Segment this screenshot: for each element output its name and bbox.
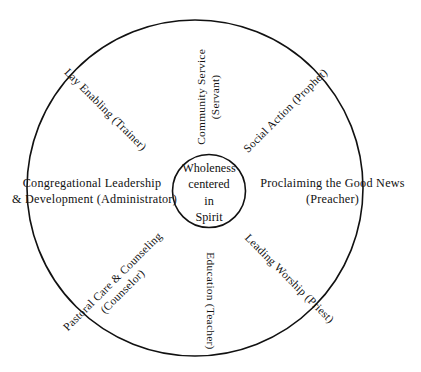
- spoke-proclaiming-line1: Proclaiming the Good News: [260, 176, 405, 190]
- spoke-lay-enabling: Lay Enabling (Trainer): [44, 48, 167, 171]
- spoke-community-service-line1: Community Service: [195, 49, 207, 145]
- wheel-diagram: Wholeness centered in Spirit Community S…: [0, 0, 421, 372]
- spoke-pastoral-care-line1: Pastoral Care & Counseling: [61, 230, 164, 333]
- spoke-community-service: Community Service (Servant): [195, 17, 223, 177]
- spoke-proclaiming-good-news: Proclaiming the Good News (Preacher): [250, 176, 415, 207]
- spoke-pastoral-care-line2: (Counselor): [54, 223, 191, 360]
- center-line-2: centered: [157, 176, 261, 192]
- spoke-leading-worship: Leading Worship (Priest): [228, 217, 351, 340]
- labels-layer: Wholeness centered in Spirit Community S…: [0, 0, 421, 372]
- spoke-lay-enabling-line1: Lay Enabling (Trainer): [62, 66, 149, 153]
- spoke-social-action: Social Action (Prophet): [225, 49, 348, 172]
- spoke-congregational-line1: Congregational Leadership: [23, 176, 162, 190]
- spoke-education: Education (Teacher): [203, 221, 217, 372]
- spoke-leading-worship-line1: Leading Worship (Priest): [243, 231, 337, 325]
- spoke-congregational-line2: & Development (Administrator): [12, 192, 172, 208]
- spoke-pastoral-care: Pastoral Care & Counseling (Counselor): [45, 213, 192, 360]
- spoke-social-action-line1: Social Action (Prophet): [241, 66, 330, 155]
- spoke-community-service-line2: (Servant): [209, 17, 223, 177]
- spoke-education-line1: Education (Teacher): [205, 252, 217, 349]
- spoke-congregational-leadership: Congregational Leadership & Development …: [12, 176, 172, 207]
- spoke-proclaiming-line2: (Preacher): [250, 192, 415, 208]
